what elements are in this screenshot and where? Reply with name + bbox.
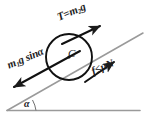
label-center-point: C xyxy=(68,48,75,59)
label-incline-angle: α xyxy=(24,99,30,109)
angle-arc xyxy=(33,100,37,111)
tension-arrow xyxy=(62,26,100,44)
physics-diagram: T=m2g m1g sinα f≤μN C α xyxy=(0,0,151,126)
